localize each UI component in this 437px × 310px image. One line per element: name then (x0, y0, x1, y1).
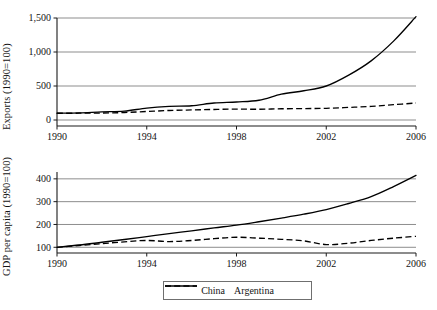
series-line-china (57, 175, 416, 247)
chart-panel-exports: Exports (1990=100) 05001,0001,5001990199… (0, 0, 437, 150)
legend-entry-china: China (201, 286, 225, 296)
svg-text:400: 400 (36, 173, 51, 184)
exports-plot-svg: 05001,0001,50019901994199820022006 (0, 0, 437, 150)
legend-swatch-argentina-dashed (164, 282, 198, 290)
svg-text:1994: 1994 (137, 131, 157, 142)
svg-text:100: 100 (36, 242, 51, 253)
svg-text:2006: 2006 (406, 258, 426, 269)
legend-entry-argentina: Argentina (234, 286, 274, 296)
two-panel-line-chart-figure: Exports (1990=100) 05001,0001,5001990199… (0, 0, 437, 310)
svg-text:1998: 1998 (227, 131, 247, 142)
svg-text:1990: 1990 (47, 258, 67, 269)
svg-text:1,000: 1,000 (29, 46, 52, 57)
svg-text:1998: 1998 (227, 258, 247, 269)
series-line-china (57, 17, 416, 114)
legend-label-china: China (201, 286, 225, 296)
svg-text:500: 500 (36, 80, 51, 91)
svg-text:200: 200 (36, 219, 51, 230)
svg-text:2002: 2002 (316, 258, 336, 269)
gdp-plot-svg: 10020030040019901994199820022006 (0, 152, 437, 280)
svg-text:1,500: 1,500 (29, 12, 52, 23)
svg-text:1994: 1994 (137, 258, 157, 269)
chart-legend: China Argentina (163, 281, 312, 300)
svg-text:2002: 2002 (316, 131, 336, 142)
svg-text:2006: 2006 (406, 131, 426, 142)
chart-panel-gdp: GDP per capita (1990=100) 10020030040019… (0, 152, 437, 280)
svg-text:300: 300 (36, 196, 51, 207)
svg-text:0: 0 (46, 114, 51, 125)
legend-label-argentina: Argentina (234, 286, 274, 296)
svg-text:1990: 1990 (47, 131, 67, 142)
